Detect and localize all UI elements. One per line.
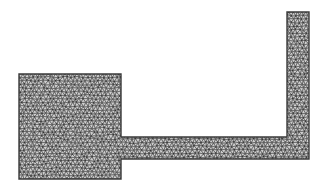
diagram-canvas [0, 0, 324, 192]
mesh-diagram [0, 0, 324, 192]
